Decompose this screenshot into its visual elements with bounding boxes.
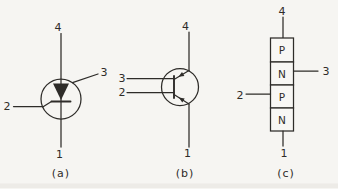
layer-label-n1: N <box>278 68 286 80</box>
terminal-2-label-c: 2 <box>237 89 244 102</box>
terminal-1-label-a: 1 <box>56 148 63 161</box>
terminal-3-label-a: 3 <box>101 66 108 79</box>
terminal-4-label-c: 4 <box>279 5 286 18</box>
terminal-3-label-c: 3 <box>323 65 330 78</box>
scs-symbols-figure: 4 3 2 1 (a) 4 3 2 1 (b) 4 <box>0 0 338 188</box>
terminal-4-label-b: 4 <box>182 20 189 33</box>
panel-c: 4 P N P N 3 2 1 (c) <box>237 5 330 181</box>
layer-label-p1: P <box>279 44 285 56</box>
panel-b-caption: (b) <box>176 167 195 180</box>
terminal-1-label-b: 1 <box>184 147 191 160</box>
panel-c-caption: (c) <box>277 167 295 180</box>
anode-gate-lead-line-a <box>73 74 99 83</box>
terminal-2-label-b: 2 <box>119 86 126 99</box>
terminal-3-label-b: 3 <box>119 72 126 85</box>
layer-label-n2: N <box>278 114 286 126</box>
layer-label-p2: P <box>279 91 285 103</box>
panel-b: 4 3 2 1 (b) <box>119 20 199 180</box>
terminal-4-label-a: 4 <box>55 21 62 34</box>
thyristor-triangle-a <box>53 84 69 101</box>
terminal-1-label-c: 1 <box>281 147 288 160</box>
scan-edge-artifact <box>0 184 338 189</box>
terminal-2-label-a: 2 <box>4 100 11 113</box>
panel-a: 4 3 2 1 (a) <box>4 21 108 180</box>
panel-a-caption: (a) <box>52 167 70 180</box>
cathode-gate-diagonal-a <box>44 102 52 107</box>
envelope-circle-b <box>162 69 199 106</box>
